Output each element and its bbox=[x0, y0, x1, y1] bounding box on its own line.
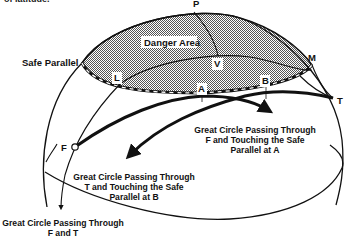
svg-text:F and Touching the Safe: F and Touching the Safe bbox=[205, 135, 304, 145]
point-f-marker bbox=[72, 144, 78, 150]
point-t-label: T bbox=[337, 95, 343, 106]
danger-area-label: Danger Area bbox=[144, 37, 201, 48]
svg-text:Great Circle Passing Through: Great Circle Passing Through bbox=[2, 218, 123, 228]
caption-gc-t-b: Great Circle Passing Through T and Touch… bbox=[73, 172, 194, 202]
caption-gc-f-t: Great Circle Passing Through F and T bbox=[2, 218, 123, 238]
point-p-label: P bbox=[193, 0, 200, 9]
svg-text:Great Circle Passing Through: Great Circle Passing Through bbox=[194, 125, 315, 135]
svg-text:Great Circle Passing Through: Great Circle Passing Through bbox=[73, 172, 194, 182]
safe-parallel-label: Safe Parallel bbox=[22, 57, 79, 68]
svg-text:F and T: F and T bbox=[48, 228, 79, 238]
point-l-label: L bbox=[114, 72, 120, 83]
point-b-label: B bbox=[262, 75, 269, 86]
svg-text:Parallel at B: Parallel at B bbox=[109, 192, 158, 202]
point-f-label: F bbox=[61, 142, 67, 153]
svg-text:T and Touching the Safe: T and Touching the Safe bbox=[84, 182, 183, 192]
great-circle-diagram: Danger Area Safe Parallel P V M L A B T … bbox=[0, 0, 347, 240]
svg-text:Parallel at A: Parallel at A bbox=[231, 145, 280, 155]
small-arc-near-f bbox=[46, 144, 57, 162]
point-a-label: A bbox=[198, 83, 205, 94]
point-m-label: M bbox=[308, 52, 316, 63]
point-v-label: V bbox=[214, 58, 221, 69]
caption-gc-f-a: Great Circle Passing Through F and Touch… bbox=[194, 125, 315, 155]
